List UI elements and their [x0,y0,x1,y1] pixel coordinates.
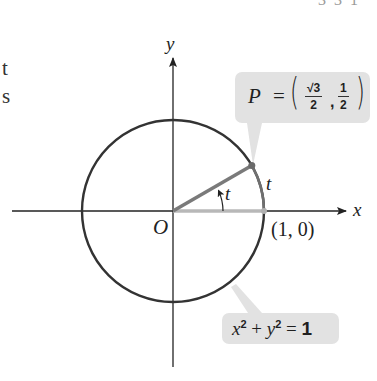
x-axis-label: x [353,199,361,221]
x-denominator: 2 [305,97,322,112]
point-start-dot [261,208,267,214]
arc-t [252,166,264,212]
arc-t-label: t [266,173,271,195]
eq-plus: + [247,318,267,339]
right-paren-icon: ) [356,69,365,113]
y-axis-label: y [166,33,174,55]
radius-to-p [173,166,252,212]
angle-t-label: t [225,183,230,205]
x-coordinate-fraction: √3 2 [305,81,322,112]
point-start-label: (1, 0) [271,218,314,241]
y-numerator: 1 [338,81,349,97]
point-p-dot [248,162,255,169]
origin-label: O [153,215,168,240]
eq-callout-pointer [231,284,262,313]
point-p-equals: = [273,84,285,109]
circle-equation-callout: x2 + y2 = 1 [222,313,339,344]
p-callout-pointer [247,123,262,165]
eq-equals: = [281,318,301,339]
y-denominator: 2 [338,97,349,112]
x-numerator: √3 [305,81,322,97]
left-paren-icon: ( [290,69,299,113]
point-p-callout: P = ( √3 2 , 1 2 ) [235,72,370,123]
y-coordinate-fraction: 1 2 [338,81,349,112]
angle-arrow-icon [219,191,224,212]
eq-rhs: 1 [302,318,313,339]
point-p-label: P [248,84,261,109]
eq-y: y [267,318,275,339]
circle-equation: x2 + y2 = 1 [232,318,312,340]
coordinate-comma: , [330,93,334,111]
